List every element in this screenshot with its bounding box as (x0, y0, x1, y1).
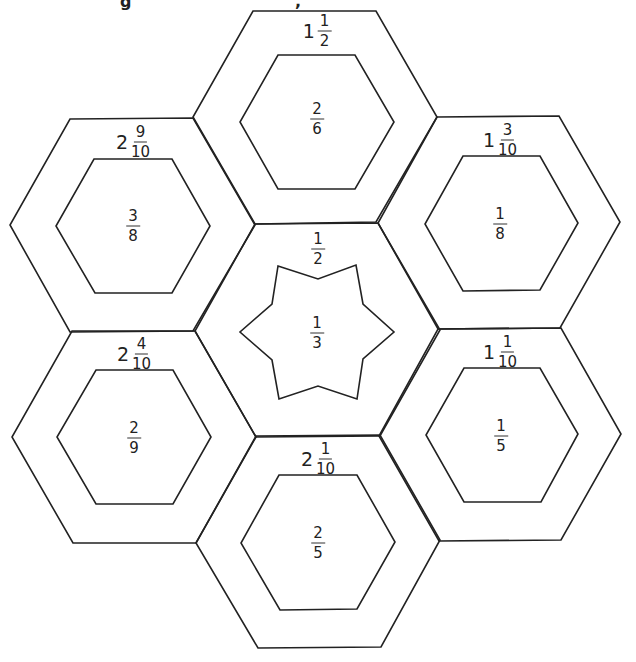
numerator: 1 (311, 232, 325, 250)
whole-part: 1 (483, 131, 495, 150)
outer-mixed-number-label: 12 (311, 232, 325, 267)
fraction: 910 (131, 125, 150, 160)
denominator: 5 (496, 437, 506, 454)
numerator: 1 (494, 419, 508, 437)
denominator: 5 (313, 544, 323, 561)
fraction: 310 (498, 123, 517, 158)
denominator: 10 (498, 141, 517, 158)
numerator: 4 (135, 337, 149, 355)
denominator: 10 (498, 353, 517, 370)
numerator: 3 (126, 209, 140, 227)
fraction: 29 (127, 421, 141, 456)
outer-mixed-number-label: 1310 (483, 123, 517, 158)
denominator: 10 (316, 460, 335, 477)
denominator: 6 (312, 120, 322, 137)
numerator: 9 (134, 125, 148, 143)
outer-mixed-number-label: 2110 (301, 442, 335, 477)
denominator: 2 (313, 250, 323, 267)
whole-part: 1 (303, 22, 315, 41)
denominator: 2 (320, 32, 330, 49)
fraction: 410 (132, 337, 151, 372)
denominator: 8 (495, 225, 505, 242)
whole-part: 2 (301, 450, 313, 469)
hexagon-puzzle-board: g , 112262910381310181213241029111015211… (0, 0, 636, 662)
whole-part: 1 (483, 343, 495, 362)
numerator: 1 (501, 335, 515, 353)
fraction: 15 (494, 419, 508, 454)
numerator: 2 (310, 102, 324, 120)
fraction: 38 (126, 209, 140, 244)
outer-mixed-number-label: 2410 (117, 337, 151, 372)
whole-part: 2 (117, 345, 129, 364)
denominator: 10 (132, 355, 151, 372)
inner-fraction-label: 18 (493, 207, 507, 242)
numerator: 1 (318, 14, 332, 32)
denominator: 8 (128, 227, 138, 244)
fraction: 110 (316, 442, 335, 477)
fraction: 110 (498, 335, 517, 370)
inner-fraction-label: 29 (127, 421, 141, 456)
fraction: 12 (311, 232, 325, 267)
denominator: 10 (131, 143, 150, 160)
denominator: 3 (312, 334, 322, 351)
inner-fraction-label: 25 (311, 526, 325, 561)
denominator: 9 (129, 439, 139, 456)
fraction: 18 (493, 207, 507, 242)
fraction: 25 (311, 526, 325, 561)
inner-fraction-label: 26 (310, 102, 324, 137)
outer-mixed-number-label: 2910 (116, 125, 150, 160)
numerator: 1 (319, 442, 333, 460)
outer-mixed-number-label: 1110 (483, 335, 517, 370)
numerator: 2 (311, 526, 325, 544)
numerator: 1 (310, 316, 324, 334)
fraction: 12 (318, 14, 332, 49)
numerator: 2 (127, 421, 141, 439)
fraction: 13 (310, 316, 324, 351)
whole-part: 2 (116, 133, 128, 152)
outer-mixed-number-label: 112 (303, 14, 332, 49)
inner-fraction-label: 38 (126, 209, 140, 244)
inner-fraction-label: 13 (310, 316, 324, 351)
fraction: 26 (310, 102, 324, 137)
inner-fraction-label: 15 (494, 419, 508, 454)
numerator: 1 (493, 207, 507, 225)
numerator: 3 (501, 123, 515, 141)
